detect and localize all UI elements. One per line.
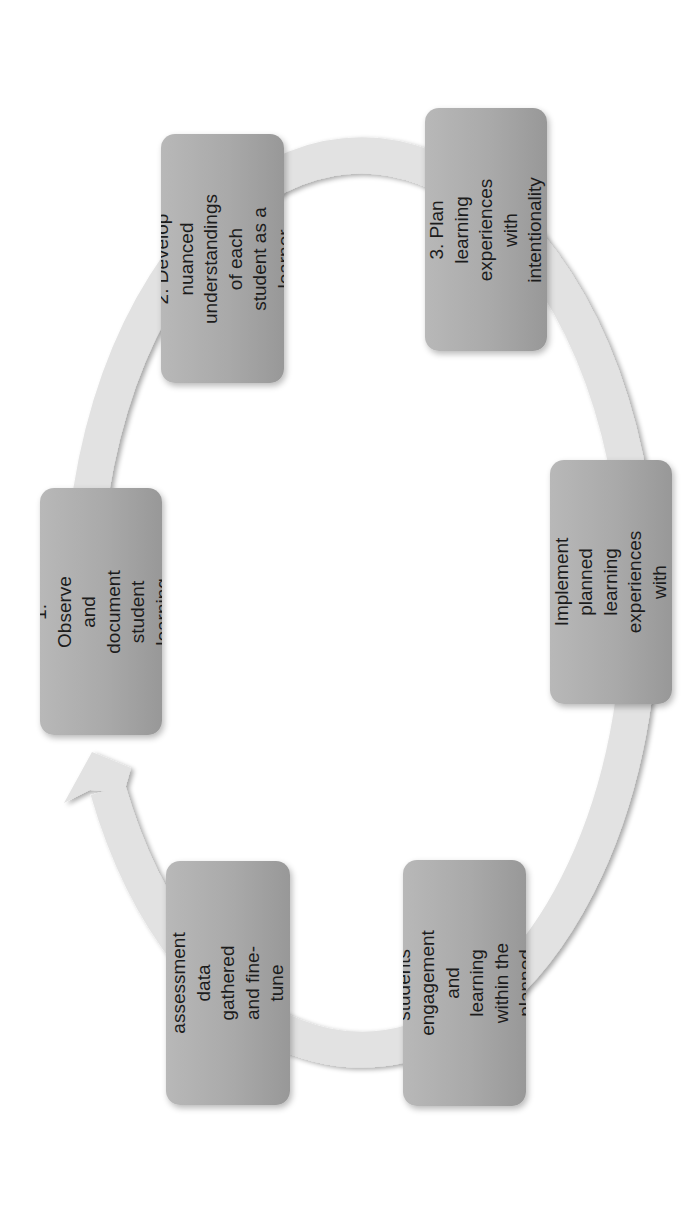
step-3-box: 3. Plan learning experiences with intent… <box>425 108 547 351</box>
step-1-label: 1. Observe and document student learning <box>40 570 162 653</box>
step-2-label: 2. Develop nuanced understandings of eac… <box>161 194 284 324</box>
step-2-box: 2. Develop nuanced understandings of eac… <box>161 134 284 383</box>
step-1-box: 1. Observe and document student learning <box>40 488 162 735</box>
step-6-box: 6. Reflect on the assessment data gather… <box>166 861 290 1105</box>
step-5-box: 5. Assess students' engagement and learn… <box>403 860 526 1106</box>
step-4-label: 4. Implement planned learning experience… <box>550 531 672 633</box>
step-4-box: 4. Implement planned learning experience… <box>550 460 672 704</box>
step-5-label: 5. Assess students' engagement and learn… <box>403 930 526 1036</box>
step-3-label: 3. Plan learning experiences with intent… <box>425 177 547 283</box>
step-6-label: 6. Reflect on the assessment data gather… <box>166 932 290 1033</box>
